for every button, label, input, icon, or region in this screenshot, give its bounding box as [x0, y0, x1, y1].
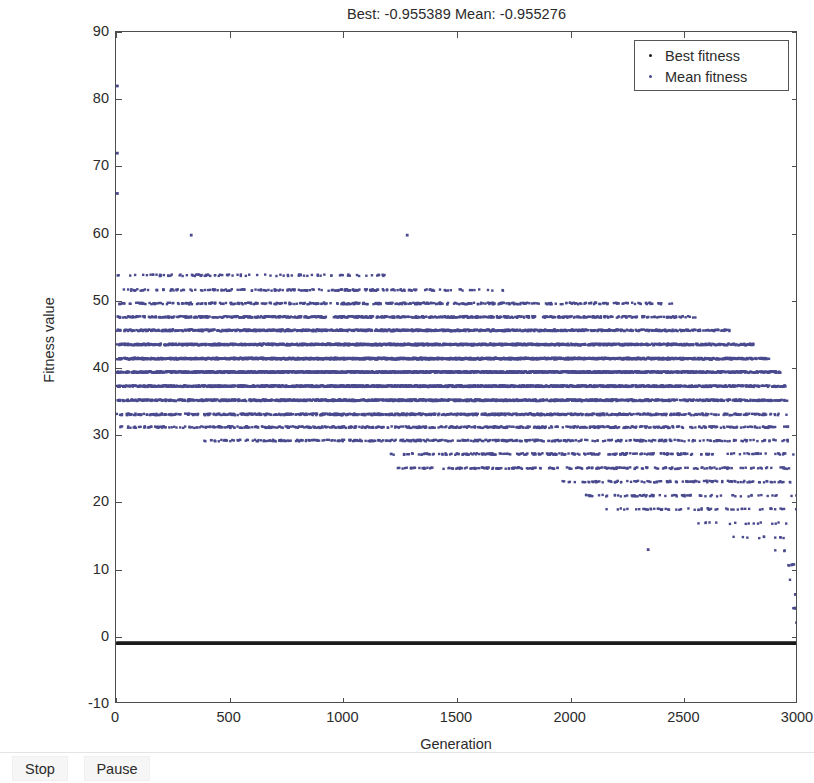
pause-button[interactable]: Pause	[84, 756, 150, 781]
chart-legend: Best fitness Mean fitness	[634, 40, 789, 91]
x-tick-1500: 1500	[440, 709, 472, 725]
x-tick-500: 500	[217, 709, 241, 725]
page-title: Best: -0.955389 Mean: -0.955276	[115, 6, 798, 22]
figure-window: Best: -0.955389 Mean: -0.955276 -1001020…	[0, 0, 814, 783]
plot-figure: Best: -0.955389 Mean: -0.955276 -1001020…	[0, 0, 814, 752]
plot-area	[115, 31, 797, 703]
legend-marker-mean-fitness	[649, 75, 652, 78]
stop-button[interactable]: Stop	[12, 756, 68, 781]
y-axis-tick-labels: -100102030405060708090	[55, 31, 109, 703]
x-axis-label: Generation	[115, 736, 797, 752]
x-tick-0: 0	[111, 709, 119, 725]
y-tick--10: -10	[63, 695, 109, 711]
y-axis-label: Fitness value	[41, 270, 57, 410]
y-tick-50: 50	[63, 292, 109, 308]
y-tick-60: 60	[63, 225, 109, 241]
y-tick-20: 20	[63, 493, 109, 509]
legend-label-best-fitness: Best fitness	[665, 48, 740, 64]
legend-item-mean-fitness: Mean fitness	[635, 66, 788, 87]
y-tick-90: 90	[63, 23, 109, 39]
x-tick-3000: 3000	[781, 709, 813, 725]
figure-toolbar: Stop Pause	[0, 752, 814, 783]
y-tick-70: 70	[63, 157, 109, 173]
y-tick-30: 30	[63, 426, 109, 442]
x-tick-2500: 2500	[667, 709, 699, 725]
x-tick-2000: 2000	[554, 709, 586, 725]
y-tick-10: 10	[63, 561, 109, 577]
legend-label-mean-fitness: Mean fitness	[665, 69, 747, 85]
x-tick-1000: 1000	[326, 709, 358, 725]
legend-item-best-fitness: Best fitness	[635, 45, 788, 66]
x-axis-tick-labels: 050010001500200025003000	[115, 709, 797, 729]
legend-marker-best-fitness	[649, 54, 652, 57]
scatter-plot-canvas	[116, 32, 797, 703]
y-tick-40: 40	[63, 359, 109, 375]
y-tick-0: 0	[63, 628, 109, 644]
y-tick-80: 80	[63, 90, 109, 106]
